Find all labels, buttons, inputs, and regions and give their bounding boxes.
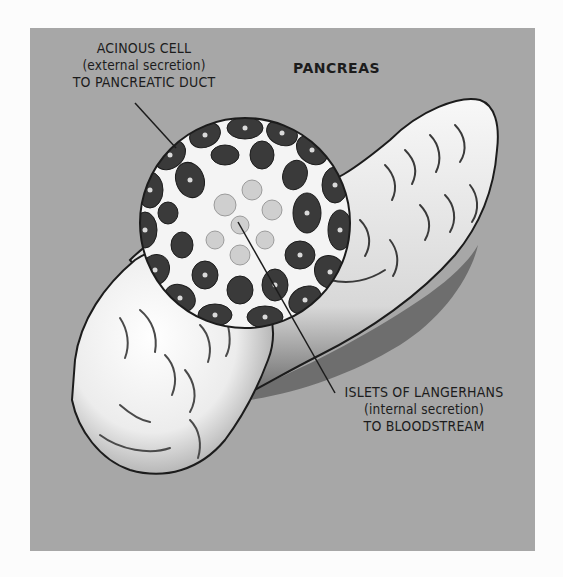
diagram-title: PANCREAS — [293, 60, 380, 76]
acinous-leader-line — [135, 103, 176, 148]
acinous-cell-label: ACINOUS CELL (external secretion) TO PAN… — [64, 40, 224, 91]
islets-of-langerhans-label: ISLETS OF LANGERHANS (internal secretion… — [326, 384, 522, 435]
acinous-label-line-3: TO PANCREATIC DUCT — [64, 74, 224, 91]
islets-label-line-3: TO BLOODSTREAM — [326, 418, 522, 435]
islets-label-line-1: ISLETS OF LANGERHANS — [326, 384, 522, 401]
islets-label-line-2: (internal secretion) — [326, 401, 522, 418]
acinous-label-line-1: ACINOUS CELL — [64, 40, 224, 57]
acinous-label-line-2: (external secretion) — [64, 57, 224, 74]
